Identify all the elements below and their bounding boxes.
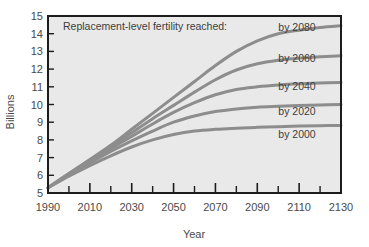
y-tick-label: 7 — [37, 152, 43, 164]
y-tick-label: 9 — [37, 116, 43, 128]
x-tick-label: 2010 — [78, 201, 102, 213]
series-label-by-2020: by 2020 — [278, 105, 316, 117]
x-tick-label: 2130 — [329, 201, 353, 213]
series-label-by-2080: by 2080 — [278, 21, 316, 33]
y-tick-label: 13 — [31, 45, 43, 57]
chart-figure: 56789101112131415 1990201020302050207020… — [0, 0, 369, 247]
y-tick-label: 8 — [37, 134, 43, 146]
x-axis-title: Year — [183, 228, 206, 240]
population-projection-line-chart: 56789101112131415 1990201020302050207020… — [0, 0, 369, 247]
x-tick-label: 2110 — [287, 201, 311, 213]
y-tick-label: 12 — [31, 63, 43, 75]
y-tick-label: 14 — [31, 28, 43, 40]
x-tick-label: 2050 — [161, 201, 185, 213]
y-tick-label: 6 — [37, 169, 43, 181]
series-label-by-2040: by 2040 — [278, 80, 316, 92]
series-label-by-2060: by 2060 — [278, 52, 316, 64]
y-tick-label: 10 — [31, 99, 43, 111]
x-tick-label: 2090 — [245, 201, 269, 213]
chart-annotation: Replacement-level fertility reached: — [63, 20, 227, 32]
y-tick-label: 11 — [32, 81, 43, 93]
x-tick-label: 1990 — [36, 201, 60, 213]
x-tick-label: 2070 — [203, 201, 227, 213]
series-label-by-2000: by 2000 — [278, 128, 316, 140]
y-axis-title: Billions — [4, 94, 16, 129]
y-tick-label: 5 — [37, 187, 43, 199]
x-tick-label: 2030 — [119, 201, 143, 213]
y-tick-label: 15 — [31, 10, 43, 22]
